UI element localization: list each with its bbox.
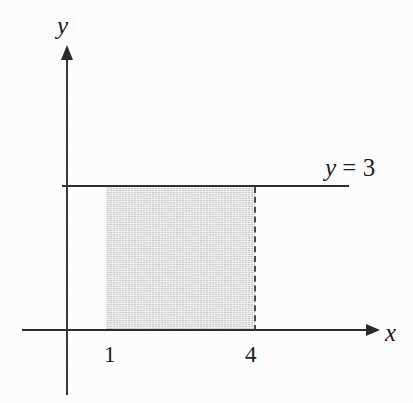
y-axis-arrow-icon xyxy=(61,45,73,60)
shaded-region xyxy=(106,187,255,330)
x-axis-arrow-icon xyxy=(366,324,380,336)
boundary-x-equals-4 xyxy=(254,187,256,331)
line-y-equals-3 xyxy=(62,185,349,187)
x-tick-label-4: 4 xyxy=(245,343,257,366)
equation-value: 3 xyxy=(363,154,376,181)
equation-variable: y xyxy=(325,154,336,181)
math-diagram-figure: y x 1 4 y = 3 xyxy=(0,0,413,403)
equation-equals-sign: = xyxy=(342,154,356,181)
x-axis-line xyxy=(22,329,377,331)
y-axis-label: y xyxy=(57,13,68,38)
x-axis-label: x xyxy=(385,320,396,345)
y-axis-line xyxy=(66,58,68,395)
line-equation-label: y = 3 xyxy=(325,155,375,180)
x-tick-label-1: 1 xyxy=(104,343,116,366)
